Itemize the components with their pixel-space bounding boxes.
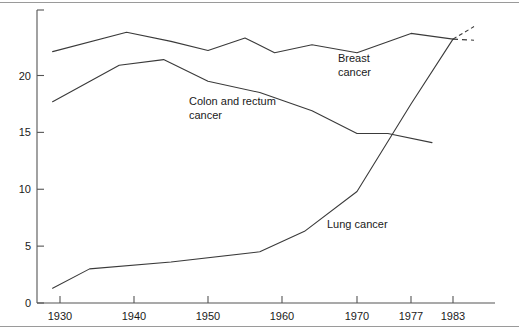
y-tick-label-0: 0	[25, 297, 31, 309]
x-tick-label-1940: 1940	[122, 310, 146, 322]
y-tick-label-15: 15	[19, 126, 31, 138]
axes-group	[37, 10, 495, 303]
colon-rectum-cancer-label-line2: cancer	[189, 109, 222, 121]
series-line-breast-cancer	[53, 32, 453, 52]
lung-cancer-label: Lung cancer	[327, 218, 388, 230]
y-tick-label-5: 5	[25, 240, 31, 252]
x-tick-label-1930: 1930	[48, 310, 72, 322]
x-tick-label-1960: 1960	[270, 310, 294, 322]
y-axis-ticks: 05101520	[19, 70, 44, 310]
breast-cancer-label-line2: cancer	[338, 66, 371, 78]
series-line-breast-cancer-projection	[453, 39, 474, 40]
x-axis-ticks: 1930194019501960197019771983	[48, 296, 465, 322]
x-tick-label-1977: 1977	[399, 310, 423, 322]
x-tick-label-1983: 1983	[441, 310, 465, 322]
series-annotations: Breast cancer Colon and rectum cancer Lu…	[189, 52, 388, 230]
breast-cancer-label-line1: Breast	[338, 52, 370, 64]
series-lines-group	[53, 27, 474, 289]
cancer-mortality-line-chart: 05101520 1930194019501960197019771983 Br…	[0, 0, 519, 334]
y-tick-label-20: 20	[19, 70, 31, 82]
series-line-lung-cancer-projection	[453, 27, 474, 40]
x-tick-label-1970: 1970	[345, 310, 369, 322]
colon-rectum-cancer-label-line1: Colon and rectum	[189, 95, 276, 107]
y-tick-label-10: 10	[19, 183, 31, 195]
x-tick-label-1950: 1950	[196, 310, 220, 322]
series-line-lung-cancer	[53, 39, 453, 288]
chart-page: 05101520 1930194019501960197019771983 Br…	[0, 0, 519, 334]
